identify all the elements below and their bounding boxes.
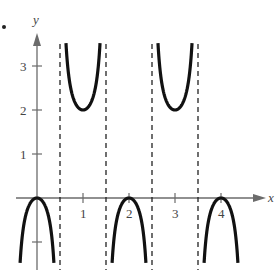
x-tick-label: 1 bbox=[80, 206, 87, 221]
x-axis-label: x bbox=[267, 190, 274, 205]
x-tick-label: 4 bbox=[218, 206, 225, 221]
bullet-marker bbox=[2, 25, 6, 29]
y-tick-label: 2 bbox=[20, 103, 27, 118]
secant-curve-branch bbox=[158, 43, 192, 110]
y-axis-arrow-icon bbox=[33, 33, 41, 46]
y-tick-label: 1 bbox=[20, 147, 27, 162]
x-tick-label: 2 bbox=[126, 206, 133, 221]
y-tick-label: 3 bbox=[20, 59, 27, 74]
plot-area: yx1234123 bbox=[0, 0, 275, 280]
chart: yx1234123 bbox=[0, 0, 275, 280]
y-axis-label: y bbox=[31, 12, 39, 27]
x-tick-label: 3 bbox=[172, 206, 179, 221]
secant-curve-branch bbox=[66, 43, 100, 110]
x-axis-arrow-icon bbox=[253, 194, 266, 202]
